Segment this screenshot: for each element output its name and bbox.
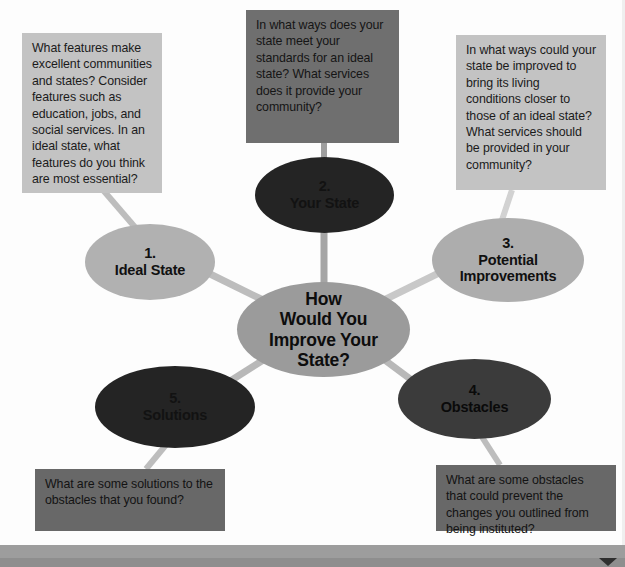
note-obstacles: What are some obstacles that could preve… [436,465,616,531]
node-label: 5. Solutions [143,390,207,424]
note-potential-improvements: In what ways could your state be improve… [456,35,606,190]
node-label: How Would You Improve Your State? [269,289,378,371]
concept-map-canvas: What features make excellent communities… [0,0,625,567]
node-label: 3. Potential Improvements [460,235,557,286]
node-your-state[interactable]: 2. Your State [255,157,394,233]
note-text: In what ways does your state meet your s… [256,18,383,114]
bottom-bar [0,545,625,567]
node-solutions[interactable]: 5. Solutions [95,366,255,448]
node-label: 2. Your State [290,178,359,212]
node-obstacles[interactable]: 4. Obstacles [398,359,551,439]
note-your-state: In what ways does your state meet your s… [246,10,399,143]
node-label: 1. Ideal State [115,245,185,279]
node-ideal-state[interactable]: 1. Ideal State [85,224,215,300]
node-potential-improvements[interactable]: 3. Potential Improvements [432,218,584,302]
note-ideal-state: What features make excellent communities… [22,33,162,193]
note-text: What are some obstacles that could preve… [446,473,589,536]
bottom-bar-lower [0,558,625,567]
note-text: What features make excellent communities… [32,41,152,186]
node-label: 4. Obstacles [441,382,509,416]
next-arrow-icon[interactable] [599,558,617,566]
node-center-question[interactable]: How Would You Improve Your State? [237,282,410,377]
note-solutions: What are some solutions to the obstacles… [35,469,225,531]
note-text: What are some solutions to the obstacles… [45,477,213,507]
note-text: In what ways could your state be improve… [466,43,596,172]
